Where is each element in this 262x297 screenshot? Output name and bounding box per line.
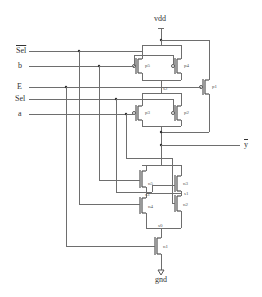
gnd-label: gnd — [155, 276, 167, 284]
transistor-n3 — [175, 175, 181, 192]
label-n5: n5 — [148, 181, 153, 186]
input-label-sel-bar: Sel — [16, 47, 26, 55]
label-p1: p1 — [212, 84, 217, 89]
transistor-n2 — [175, 195, 181, 212]
schematic-canvas — [0, 0, 262, 297]
label-p4: p4 — [184, 63, 189, 68]
output-label-y-bar: y — [244, 141, 248, 149]
label-p2: p2 — [184, 110, 189, 115]
label-s2: s2 — [163, 86, 167, 91]
transistor-n4 — [140, 197, 146, 214]
label-s3: s3 — [145, 192, 149, 197]
label-s1: s1 — [184, 191, 188, 196]
label-n4: n4 — [148, 204, 153, 209]
transistor-p3 — [133, 105, 143, 121]
label-n3: n3 — [183, 181, 188, 186]
vdd-label: vdd — [154, 15, 166, 23]
transistor-n5 — [140, 170, 146, 188]
label-p5: p5 — [145, 63, 150, 68]
transistor-n1 — [155, 237, 161, 255]
label-n2: n2 — [183, 202, 188, 207]
label-n1: n1 — [163, 244, 168, 249]
input-label-sel: Sel — [15, 95, 25, 103]
input-label-b: b — [18, 62, 22, 70]
label-s0: s0 — [158, 223, 162, 228]
label-p3: p3 — [145, 110, 150, 115]
input-label-e: E — [17, 83, 22, 91]
input-label-a: a — [18, 110, 22, 118]
